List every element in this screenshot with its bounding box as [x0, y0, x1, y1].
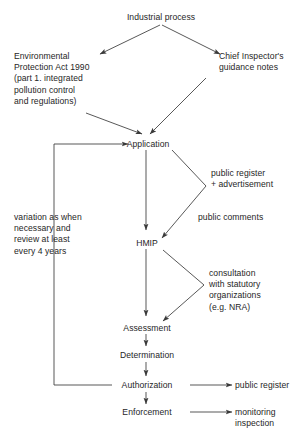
node-hmip: HMIP: [136, 238, 158, 249]
annotation-public-register-advertisement: public register + advertisement: [211, 168, 273, 190]
arrow-process-to-epa: [100, 25, 160, 54]
node-chief-inspector-guidance-notes: Chief Inspector's guidance notes: [219, 51, 284, 73]
arrow-process-to-chief-inspector: [162, 25, 220, 54]
node-authorization: Authorization: [122, 380, 173, 391]
feedback-loop-authorization-to-application: [54, 144, 128, 385]
arrow-epa-to-application: [86, 113, 142, 134]
flowchart-diagram: Industrial process Environmental Protect…: [0, 0, 304, 437]
node-assessment: Assessment: [123, 323, 170, 334]
output-public-register: public register: [235, 380, 289, 391]
output-monitoring-inspection: monitoring inspection: [235, 407, 276, 429]
node-enforcement: Enforcement: [122, 407, 171, 418]
node-application: Application: [127, 139, 170, 150]
annotation-public-comments: public comments: [198, 212, 263, 223]
bracket-consultation-upper: [163, 250, 204, 285]
bracket-consultation-lower: [163, 285, 204, 321]
arrow-chief-inspector-to-application: [150, 78, 206, 134]
bracket-public-register-upper: [172, 150, 206, 186]
node-industrial-process: Industrial process: [127, 12, 195, 23]
node-environmental-protection-act: Environmental Protection Act 1990 (part …: [14, 51, 89, 107]
annotation-variation-review: variation as when necessary and review a…: [14, 212, 82, 257]
annotation-consultation-statutory-organizations: consultation with statutory organization…: [209, 268, 261, 313]
node-determination: Determination: [120, 350, 174, 361]
